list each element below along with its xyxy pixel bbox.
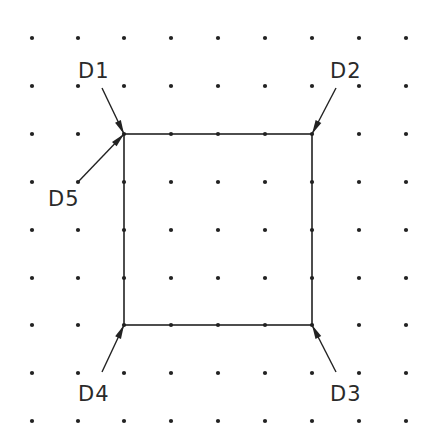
grid-dot [310, 371, 314, 375]
grid-dot [169, 419, 173, 423]
grid-dot [169, 371, 173, 375]
arrowhead-icon [312, 325, 321, 339]
grid-dot [76, 132, 80, 136]
grid-dot [357, 180, 361, 184]
grid-dot [76, 371, 80, 375]
grid-dot [404, 419, 408, 423]
grid-dot [216, 276, 220, 280]
grid-dot [263, 228, 267, 232]
grid-dot [357, 84, 361, 88]
grid-dot [357, 36, 361, 40]
grid-dot [404, 371, 408, 375]
callout-d2: D2 [312, 59, 362, 134]
grid-dot [404, 84, 408, 88]
callout-d4: D4 [78, 325, 124, 406]
callout-label: D3 [330, 382, 362, 406]
arrowhead-icon [115, 325, 124, 339]
grid-dot [310, 84, 314, 88]
grid-dot [169, 36, 173, 40]
grid-dot [122, 84, 126, 88]
grid-dot [76, 323, 80, 327]
grid-dot [216, 36, 220, 40]
grid-dot [357, 228, 361, 232]
grid-dot [404, 132, 408, 136]
grid-dot [30, 84, 34, 88]
callouts: D1D2D3D4D5 [48, 59, 362, 406]
grid-dot [216, 371, 220, 375]
grid-dot [357, 323, 361, 327]
grid-dot [30, 132, 34, 136]
grid-dot [76, 84, 80, 88]
grid-dot [30, 180, 34, 184]
grid-dot [30, 276, 34, 280]
grid-dot [357, 276, 361, 280]
grid-dot [216, 419, 220, 423]
grid-dot [357, 419, 361, 423]
grid-dot [357, 132, 361, 136]
grid-dot [310, 36, 314, 40]
grid-dots [30, 36, 408, 423]
grid-dot [76, 276, 80, 280]
callout-d1: D1 [78, 59, 124, 134]
grid-dot [263, 84, 267, 88]
grid-dot [122, 371, 126, 375]
grid-dot [169, 228, 173, 232]
grid-dot [30, 323, 34, 327]
grid-dot [30, 36, 34, 40]
grid-dot [30, 228, 34, 232]
grid-dot [404, 323, 408, 327]
callout-label: D1 [78, 59, 110, 83]
grid-dot [169, 180, 173, 184]
grid-dot [310, 419, 314, 423]
grid-dot [169, 84, 173, 88]
grid-dot [263, 419, 267, 423]
grid-dot [216, 180, 220, 184]
grid-dot [216, 84, 220, 88]
callout-d3: D3 [312, 325, 362, 406]
grid-dot [122, 419, 126, 423]
grid-dot [357, 371, 361, 375]
grid-dot [76, 36, 80, 40]
callout-label: D4 [78, 382, 110, 406]
grid-dot [30, 371, 34, 375]
grid-dot [263, 371, 267, 375]
callout-label: D2 [330, 59, 362, 83]
grid-dot [404, 276, 408, 280]
grid-dot [263, 276, 267, 280]
diagram-canvas: D1D2D3D4D5 [0, 0, 438, 441]
grid-dot [169, 276, 173, 280]
grid-dot [216, 228, 220, 232]
arrowhead-icon [115, 120, 124, 134]
grid-dot [404, 180, 408, 184]
arrowhead-icon [312, 120, 321, 134]
grid-dot [263, 180, 267, 184]
callout-d5: D5 [48, 134, 124, 211]
diagram-svg: D1D2D3D4D5 [0, 0, 438, 441]
grid-dot [76, 419, 80, 423]
callout-label: D5 [48, 187, 80, 211]
grid-dot [122, 36, 126, 40]
grid-dot [404, 36, 408, 40]
grid-dot [404, 228, 408, 232]
grid-dot [263, 36, 267, 40]
grid-dot [30, 419, 34, 423]
grid-dot [76, 228, 80, 232]
